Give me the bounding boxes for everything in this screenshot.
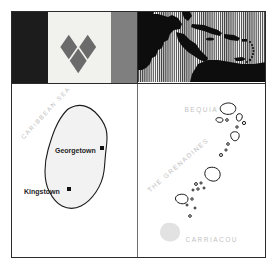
bordered-plate: CARIBBEAN SEA Georgetown Kingstown — [11, 11, 266, 258]
island-outline-saint-vincent — [45, 105, 107, 208]
city-marker-kingstown — [67, 187, 71, 191]
saint-vincent-graphic — [12, 84, 137, 257]
locator-map-graphic — [138, 12, 266, 82]
flag-green-band — [111, 12, 137, 83]
saint-vincent-island-map: CARIBBEAN SEA Georgetown Kingstown — [12, 84, 138, 257]
grenadines-graphic — [138, 84, 266, 257]
caribbean-locator-map — [137, 12, 266, 83]
lower-map-panels: CARIBBEAN SEA Georgetown Kingstown — [12, 84, 265, 257]
city-marker-georgetown — [100, 146, 104, 150]
flag-of-saint-vincent-and-the-grenadines — [12, 12, 137, 83]
grenadines-map: BEQUIA THE GRENADINES CARRIACOU — [138, 84, 266, 257]
flag-blue-band — [12, 12, 48, 83]
ghost-island-carriacou — [160, 223, 180, 242]
figure-plate-root: CARIBBEAN SEA Georgetown Kingstown — [0, 0, 277, 270]
top-strip — [12, 12, 265, 84]
flag-yellow-band — [48, 12, 111, 83]
